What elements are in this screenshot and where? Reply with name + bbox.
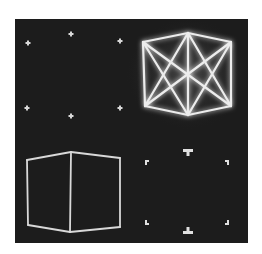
figure-canvas [0, 0, 262, 254]
cube-rendering-figure [0, 0, 262, 254]
cube-edge [27, 160, 28, 225]
cube-edge [70, 152, 71, 232]
